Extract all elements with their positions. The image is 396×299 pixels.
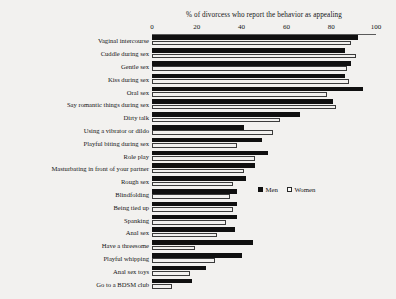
bar-women	[152, 66, 347, 71]
bar-women	[152, 105, 336, 110]
bar-men	[152, 35, 358, 40]
category-label: Oral sex	[127, 89, 149, 97]
chart-category-row: Vaginal intercourse	[152, 35, 376, 48]
chart-category-row: Dirty talk	[152, 112, 376, 125]
bar-women	[152, 271, 190, 276]
bar-men	[152, 48, 345, 53]
bar-women	[152, 92, 327, 97]
category-label: Using a vibrator or dildo	[84, 127, 149, 135]
bar-women	[152, 79, 349, 84]
category-label: Say romantic things during sex	[67, 102, 149, 110]
category-label: Playful biting during sex	[84, 140, 149, 148]
category-label: Spanking	[124, 217, 149, 225]
bar-men	[152, 240, 253, 245]
bar-women	[152, 220, 226, 225]
bar-women	[152, 207, 233, 212]
chart-category-row: Spanking	[152, 214, 376, 227]
bar-men	[152, 215, 237, 220]
bar-men	[152, 227, 235, 232]
category-label: Rough sex	[121, 178, 149, 186]
bar-men	[152, 61, 351, 66]
bar-women	[152, 284, 172, 289]
chart-category-row: Say romantic things during sex	[152, 99, 376, 112]
category-label: Kiss during sex	[108, 76, 149, 84]
category-label: Anal sex	[126, 230, 149, 238]
category-label: Anal sex toys	[113, 268, 149, 276]
chart-category-row: Role play	[152, 150, 376, 163]
x-tick-label-0: 0	[150, 23, 154, 31]
chart-category-row: Using a vibrator or dildo	[152, 125, 376, 138]
chart-category-row: Cuddle during sex	[152, 48, 376, 61]
chart-category-row: Gentle sex	[152, 61, 376, 74]
category-label: Blindfolding	[115, 191, 149, 199]
x-tick-label-100: 100	[371, 23, 382, 31]
x-tick-label-60: 60	[283, 23, 290, 31]
bar-women	[152, 246, 195, 251]
legend-swatch-women-icon	[287, 187, 292, 192]
bar-men	[152, 151, 268, 156]
chart-legend: Men Women	[258, 186, 315, 193]
category-label: Gentle sex	[121, 63, 149, 71]
category-label: Masturbating in front of your partner	[51, 166, 149, 174]
legend-label-men: Men	[266, 186, 278, 193]
chart-category-row: Anal sex	[152, 227, 376, 240]
chart-category-row: Go to a BDSM club	[152, 278, 376, 291]
bar-men	[152, 112, 300, 117]
bar-men	[152, 163, 255, 168]
bar-men	[152, 125, 244, 130]
bar-women	[152, 130, 273, 135]
category-label: Cuddle during sex	[101, 50, 149, 58]
chart-category-row: Playful whipping	[152, 253, 376, 266]
category-label: Go to a BDSM club	[96, 281, 149, 289]
bar-men	[152, 138, 262, 143]
chart-category-row: Kiss during sex	[152, 73, 376, 86]
bar-women	[152, 169, 244, 174]
bar-women	[152, 118, 280, 123]
bar-women	[152, 258, 215, 263]
divorcees-behavior-bar-chart: % of divorcess who report the behavior a…	[0, 0, 396, 299]
bar-women	[152, 233, 217, 238]
plot-area: Vaginal intercourseCuddle during sexGent…	[152, 35, 376, 291]
x-tick-label-80: 80	[328, 23, 335, 31]
bar-men	[152, 279, 192, 284]
category-label: Dirty talk	[124, 114, 149, 122]
legend-item-women: Women	[287, 186, 315, 193]
chart-category-row: Anal sex toys	[152, 265, 376, 278]
chart-category-row: Have a threesome	[152, 240, 376, 253]
bar-men	[152, 202, 237, 207]
legend-label-women: Women	[294, 186, 315, 193]
category-label: Have a threesome	[102, 242, 149, 250]
bar-women	[152, 182, 233, 187]
bar-women	[152, 41, 351, 46]
category-label: Playful whipping	[103, 255, 149, 263]
category-label: Vaginal intercourse	[98, 38, 149, 46]
x-tick-label-40: 40	[238, 23, 245, 31]
bar-men	[152, 266, 206, 271]
x-tick-label-20: 20	[193, 23, 200, 31]
chart-category-row: Being tied up	[152, 201, 376, 214]
x-axis-tick-labels: 020406080100	[152, 23, 376, 33]
bar-men	[152, 99, 333, 104]
bar-men	[152, 253, 242, 258]
chart-category-row: Masturbating in front of your partner	[152, 163, 376, 176]
chart-title: % of divorcess who report the behavior a…	[152, 11, 376, 20]
bar-men	[152, 87, 363, 92]
bar-men	[152, 74, 345, 79]
bar-women	[152, 194, 230, 199]
bar-women	[152, 143, 237, 148]
legend-swatch-men-icon	[258, 187, 263, 192]
bar-women	[152, 54, 356, 59]
category-label: Role play	[124, 153, 149, 161]
bar-women	[152, 156, 255, 161]
chart-category-row: Playful biting during sex	[152, 137, 376, 150]
bar-men	[152, 176, 246, 181]
category-label: Being tied up	[113, 204, 149, 212]
chart-category-row: Oral sex	[152, 86, 376, 99]
bar-men	[152, 189, 237, 194]
legend-item-men: Men	[258, 186, 278, 193]
